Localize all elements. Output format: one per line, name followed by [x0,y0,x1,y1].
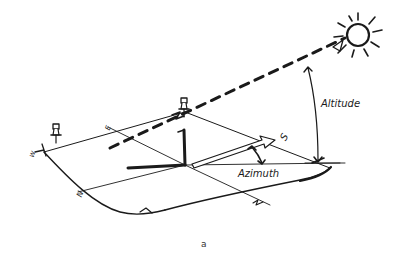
sun-ray [110,38,345,148]
west-label: W [28,149,37,158]
thumbtack-icon [51,124,61,143]
sun-position-diagram: Altitude Azimuth S E N W a [0,0,407,263]
east-label: E [104,124,113,131]
altitude-arc [304,67,345,163]
compass-lines [78,127,340,205]
figure-caption: a [201,239,207,249]
ground-plane [44,112,331,214]
south-label: S [278,131,291,143]
azimuth-label: Azimuth [237,168,279,179]
altitude-label: Altitude [320,98,360,109]
gnomon [128,130,185,168]
thumbtack-icon [179,98,189,117]
sun-icon [334,13,382,57]
corner-mark [35,144,46,156]
